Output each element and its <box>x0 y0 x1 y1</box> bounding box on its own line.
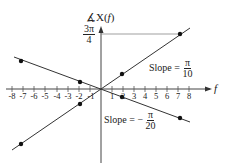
tick-label: 7 <box>176 92 180 101</box>
tick-label: 2 <box>121 92 125 101</box>
tick-label: 3 <box>132 92 136 101</box>
tick-label: 8 <box>187 92 191 101</box>
plot-canvas <box>0 0 226 166</box>
tick-label: 4 <box>143 92 147 101</box>
tick-label: -5 <box>41 92 48 101</box>
y-axis-label-text: ∡X( <box>86 11 108 23</box>
y-axis-label: ∡X(f) <box>86 12 114 22</box>
marker-denominator: 4 <box>87 35 92 45</box>
tick-label: -8 <box>8 92 15 101</box>
tick-label: 6 <box>165 92 169 101</box>
tick-label: -4 <box>53 92 60 101</box>
tick-label: -3 <box>64 92 71 101</box>
x-axis-arrow-icon <box>205 87 212 92</box>
tick-label: 5 <box>154 92 158 101</box>
tick-label: -2 <box>75 92 82 101</box>
tick-label: -1 <box>87 92 94 101</box>
y-marker-label: 3π4 <box>83 24 95 45</box>
x-axis-label: f <box>214 83 217 93</box>
slope1-denominator: 10 <box>182 69 192 79</box>
slope1-text: Slope = <box>149 62 180 73</box>
tick-label: -6 <box>30 92 37 101</box>
tick-label: 1 <box>110 92 114 101</box>
slope-annotation-2: Slope = − π20 <box>104 110 156 131</box>
y-axis-label-close: ) <box>111 11 115 23</box>
slope2-text: Slope = − <box>104 114 143 125</box>
y-axis-arrow-icon <box>99 26 104 33</box>
slope-annotation-1: Slope = π10 <box>149 58 192 79</box>
slope2-denominator: 20 <box>146 121 156 131</box>
tick-label: -7 <box>19 92 26 101</box>
